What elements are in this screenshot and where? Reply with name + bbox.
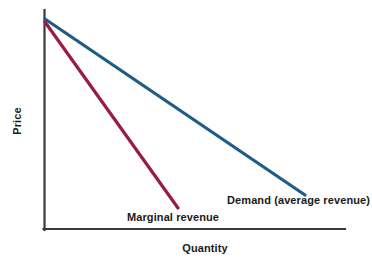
- x-axis-title: Quantity: [160, 242, 250, 254]
- marginal-revenue-curve: [45, 22, 178, 208]
- demand-marginal-revenue-chart: Price Quantity Demand (average revenue) …: [0, 0, 372, 261]
- y-axis-title-text: Price: [11, 107, 23, 134]
- demand-curve: [45, 19, 305, 195]
- marginal-revenue-curve-label: Marginal revenue: [127, 211, 219, 223]
- demand-curve-label: Demand (average revenue): [227, 194, 370, 206]
- y-axis-title: Price: [0, 114, 43, 128]
